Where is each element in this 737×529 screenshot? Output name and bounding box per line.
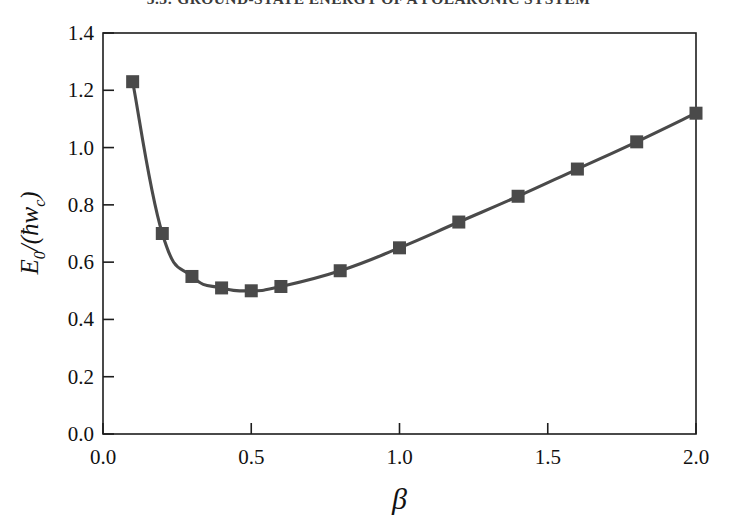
y-axis-title-omega-subscript: c <box>31 200 48 207</box>
data-point-marker <box>126 75 139 88</box>
y-axis-title-hbar: ħ <box>16 224 43 237</box>
data-point-marker <box>630 135 643 148</box>
y-tick-label: 0.4 <box>68 307 95 331</box>
y-axis-tick-labels: 0.00.20.40.60.81.01.21.4 <box>68 21 95 446</box>
data-point-marker <box>185 270 198 283</box>
data-point-marker <box>215 281 228 294</box>
svg-text:E0/(ħwc): E0/(ħwc) <box>16 191 48 275</box>
x-tick-label: 0.5 <box>238 445 264 469</box>
x-axis-title: β <box>391 482 407 515</box>
data-series-markers <box>126 75 702 297</box>
chart-figure: 0.00.20.40.60.81.01.21.4 0.00.51.01.52.0… <box>0 0 737 529</box>
y-tick-label: 1.2 <box>68 78 94 102</box>
y-axis-title-close: ) <box>16 191 44 201</box>
y-tick-label: 1.0 <box>68 136 94 160</box>
data-point-marker <box>452 216 465 229</box>
y-axis-ticks <box>103 33 114 434</box>
data-point-marker <box>393 241 406 254</box>
data-point-marker <box>690 107 703 120</box>
y-tick-label: 0.6 <box>68 250 94 274</box>
x-axis-ticks <box>103 423 696 434</box>
y-axis-title-divider: /( <box>16 234 44 253</box>
y-axis-title-subscript: 0 <box>31 251 48 259</box>
y-tick-label: 0.8 <box>68 193 94 217</box>
y-tick-label: 1.4 <box>68 21 95 45</box>
x-tick-label: 2.0 <box>683 445 709 469</box>
data-series-line <box>133 82 696 291</box>
y-axis-title-symbol: E <box>16 259 43 275</box>
y-tick-label: 0.0 <box>68 422 94 446</box>
y-axis-title: E0/(ħwc) <box>16 191 48 275</box>
x-tick-label: 1.5 <box>535 445 561 469</box>
y-tick-label: 0.2 <box>68 365 94 389</box>
data-point-marker <box>512 190 525 203</box>
x-tick-label: 1.0 <box>386 445 412 469</box>
x-tick-label: 0.0 <box>90 445 116 469</box>
data-point-marker <box>274 280 287 293</box>
data-point-marker <box>245 284 258 297</box>
x-axis-tick-labels: 0.00.51.01.52.0 <box>90 445 709 469</box>
data-point-marker <box>571 163 584 176</box>
data-point-marker <box>156 227 169 240</box>
plot-frame <box>103 33 696 434</box>
data-point-marker <box>334 264 347 277</box>
line-chart-plot: 0.00.20.40.60.81.01.21.4 0.00.51.01.52.0… <box>0 0 737 529</box>
y-axis-title-omega: w <box>16 207 43 224</box>
